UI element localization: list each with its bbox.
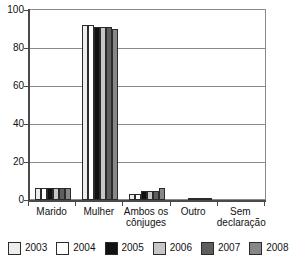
legend-item-2003[interactable]: 2003 xyxy=(8,242,47,255)
legend-swatch-2003 xyxy=(8,242,21,255)
legend-swatch-2006 xyxy=(153,242,166,255)
y-tick-80 xyxy=(24,48,28,49)
bar-mulher-2008 xyxy=(112,29,118,200)
x-label-line: Ambos os xyxy=(122,206,169,217)
x-label-line: Marido xyxy=(28,206,75,217)
y-tick-100 xyxy=(24,10,28,11)
x-label-line: cônjuges xyxy=(122,217,169,228)
x-label-line: Outro xyxy=(170,206,217,217)
legend-label-2007: 2007 xyxy=(218,243,240,253)
y-tick-20 xyxy=(24,162,28,163)
y-tick-60 xyxy=(24,86,28,87)
legend-item-2005[interactable]: 2005 xyxy=(105,242,144,255)
legend-label-2006: 2006 xyxy=(170,243,192,253)
bar-chart: 020406080100 MaridoMulherAmbos oscônjuge… xyxy=(0,0,295,265)
legend-item-2008[interactable]: 2008 xyxy=(249,242,288,255)
y-tick-40 xyxy=(24,124,28,125)
x-label-line: Sem xyxy=(217,206,264,217)
legend-item-2004[interactable]: 2004 xyxy=(56,242,95,255)
bars-layer xyxy=(29,10,265,200)
x-axis-label-marido: Marido xyxy=(28,206,75,217)
x-axis-label-sem-declaração: Semdeclaração xyxy=(217,206,264,228)
legend-label-2003: 2003 xyxy=(25,243,47,253)
legend-swatch-2007 xyxy=(201,242,214,255)
chart-legend: 200320042005200620072008 xyxy=(8,238,290,258)
y-tick-label-20: 20 xyxy=(0,157,24,167)
x-axis xyxy=(28,200,266,202)
legend-swatch-2005 xyxy=(105,242,118,255)
legend-swatch-2004 xyxy=(56,242,69,255)
legend-label-2008: 2008 xyxy=(266,243,288,253)
x-axis-label-ambos-os-cônjuges: Ambos oscônjuges xyxy=(122,206,169,228)
x-tick-5 xyxy=(264,202,265,206)
y-tick-label-0: 0 xyxy=(0,195,24,205)
legend-label-2005: 2005 xyxy=(122,243,144,253)
legend-item-2007[interactable]: 2007 xyxy=(201,242,240,255)
x-label-line: declaração xyxy=(217,217,264,228)
y-tick-label-80: 80 xyxy=(0,43,24,53)
x-label-line: Mulher xyxy=(75,206,122,217)
bar-ambos-os-cônjuges-2008 xyxy=(159,188,165,200)
y-tick-label-100: 100 xyxy=(0,5,24,15)
x-axis-label-outro: Outro xyxy=(170,206,217,217)
bar-marido-2008 xyxy=(65,188,71,200)
legend-label-2004: 2004 xyxy=(73,243,95,253)
y-tick-label-40: 40 xyxy=(0,119,24,129)
legend-item-2006[interactable]: 2006 xyxy=(153,242,192,255)
y-tick-label-60: 60 xyxy=(0,81,24,91)
legend-swatch-2008 xyxy=(249,242,262,255)
x-axis-label-mulher: Mulher xyxy=(75,206,122,217)
